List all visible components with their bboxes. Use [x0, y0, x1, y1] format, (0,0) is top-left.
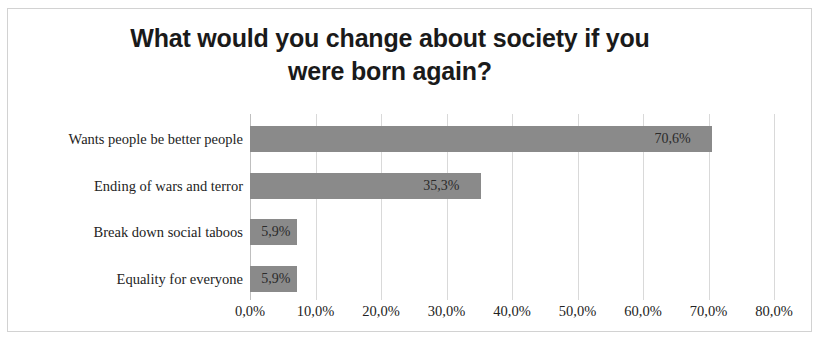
chart-title: What would you change about society if y… — [60, 22, 720, 88]
category-label: Equality for everyone — [0, 266, 243, 292]
bar-value-label: 35,3% — [423, 173, 459, 199]
bar-value-label: 5,9% — [261, 266, 290, 292]
value-axis-tick-labels: 0,0%10,0%20,0%30,0%40,0%50,0%60,0%70,0%8… — [0, 303, 822, 327]
bar[interactable] — [250, 126, 712, 152]
chart-canvas: What would you change about society if y… — [0, 0, 822, 340]
gridline — [774, 114, 775, 300]
bar-row[interactable]: 5,9% — [250, 266, 774, 292]
chart-title-line-1: What would you change about society if y… — [130, 24, 649, 52]
category-label: Break down social taboos — [0, 219, 243, 245]
category-label: Ending of wars and terror — [0, 173, 243, 199]
bar-row[interactable]: 35,3% — [250, 173, 774, 199]
bar-row[interactable]: 5,9% — [250, 219, 774, 245]
bar-value-label: 70,6% — [654, 126, 690, 152]
x-axis-tick-label: 80,0% — [734, 303, 814, 320]
category-axis-labels: Wants people be better peopleEnding of w… — [0, 114, 243, 300]
bar-value-label: 5,9% — [261, 219, 290, 245]
bar-row[interactable]: 70,6% — [250, 126, 774, 152]
category-label: Wants people be better people — [0, 126, 243, 152]
plot-area: 70,6%35,3%5,9%5,9% — [250, 114, 774, 300]
chart-title-line-2: were born again? — [288, 57, 492, 85]
